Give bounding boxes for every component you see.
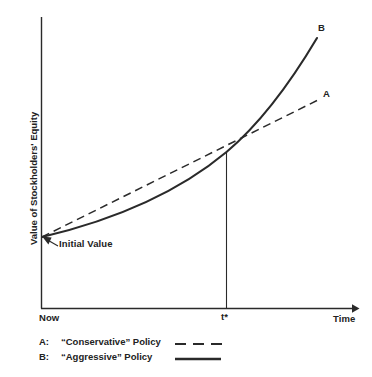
series-a-endpoint-label: A: [323, 88, 330, 99]
x-axis-title: Time: [333, 313, 355, 324]
legend-sample-dashed: [175, 342, 227, 346]
y-axis-title: Value of Stockholders' Equity: [28, 95, 42, 245]
initial-value-annotation-arrowhead: [42, 236, 51, 244]
series-b-aggressive-curve: [42, 38, 317, 237]
y-axis-title-text: Value of Stockholders' Equity: [28, 112, 39, 245]
initial-value-annotation-label: Initial Value: [59, 238, 113, 249]
x-axis-tick-label-tstar: t*: [221, 311, 228, 322]
series-a-conservative-line: [42, 100, 318, 237]
legend-row-a: A: “Conservative” Policy: [39, 336, 339, 351]
x-axis-tick-label-now: Now: [39, 312, 59, 323]
x-axis-arrowhead: [352, 304, 360, 313]
chart-legend: A: “Conservative” Policy B: “Aggressive”…: [39, 336, 339, 370]
legend-key-b: B:: [39, 351, 49, 362]
legend-label-a: “Conservative” Policy: [61, 336, 161, 347]
legend-row-b: B: “Aggressive” Policy: [39, 351, 339, 366]
legend-key-a: A:: [39, 336, 49, 347]
figure-chart-stockholders-equity: Value of Stockholders' Equity B A Initia…: [0, 0, 372, 377]
legend-label-b: “Aggressive” Policy: [61, 351, 152, 362]
series-b-endpoint-label: B: [318, 22, 325, 33]
legend-sample-solid: [175, 357, 227, 361]
